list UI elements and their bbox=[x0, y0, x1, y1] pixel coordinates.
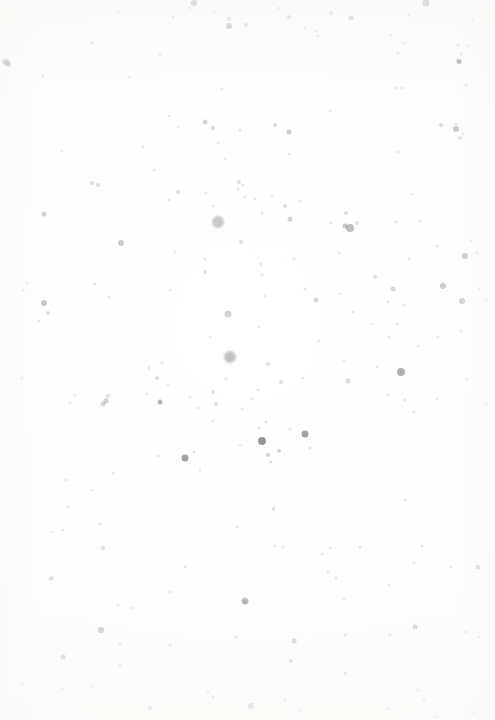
speckle-dot bbox=[465, 631, 468, 634]
speckle-dot bbox=[472, 20, 475, 23]
speckle-dot bbox=[417, 689, 420, 692]
speckle-dot bbox=[283, 204, 287, 208]
speckle-dot bbox=[61, 150, 64, 153]
speckle-dot bbox=[284, 699, 287, 702]
speckle-dot bbox=[91, 489, 94, 492]
speckle-dot bbox=[217, 142, 220, 145]
speckle-dot bbox=[221, 88, 224, 91]
speckle-dot bbox=[74, 394, 77, 397]
speckle-dot bbox=[476, 565, 481, 570]
speckle-dot bbox=[397, 368, 405, 376]
speckle-dot bbox=[273, 123, 277, 127]
speckle-dot bbox=[211, 126, 215, 130]
speckle-dot bbox=[327, 571, 330, 574]
speckle-dot bbox=[226, 23, 232, 29]
speckle-dot bbox=[346, 224, 354, 232]
speckle-dot bbox=[241, 408, 244, 411]
speckle-dot bbox=[387, 301, 390, 304]
speckle-dot bbox=[403, 304, 406, 307]
speckle-dot bbox=[419, 220, 422, 223]
speckle-dot bbox=[244, 196, 247, 199]
speckle-dot bbox=[212, 205, 215, 208]
speckle-dot bbox=[329, 11, 333, 15]
speckle-dot bbox=[282, 546, 285, 549]
speckle-dot bbox=[388, 584, 391, 587]
speckle-dot bbox=[197, 407, 200, 410]
speckle-dot bbox=[437, 336, 440, 339]
speckle-dot bbox=[169, 644, 172, 647]
speckle-dot bbox=[352, 311, 355, 314]
speckle-dot bbox=[436, 398, 439, 401]
speckle-dot bbox=[261, 274, 264, 277]
speckle-dot bbox=[335, 577, 338, 580]
speckle-dot bbox=[287, 130, 292, 135]
speckle-dot bbox=[288, 153, 291, 156]
speckle-dot bbox=[38, 320, 41, 323]
speckle-dot bbox=[258, 427, 261, 430]
speckle-dot bbox=[91, 42, 94, 45]
speckle-dot bbox=[411, 193, 414, 196]
speckle-dot bbox=[344, 211, 348, 215]
speckle-dot bbox=[478, 636, 481, 639]
speckle-dot bbox=[343, 598, 346, 601]
speckle-dot bbox=[476, 252, 479, 255]
speckle-dot bbox=[470, 240, 473, 243]
speckle-dot bbox=[98, 627, 104, 633]
speckle-dot bbox=[339, 293, 342, 296]
speckle-dot bbox=[304, 288, 307, 291]
speckle-dot bbox=[184, 566, 187, 569]
speckle-dot bbox=[61, 688, 64, 691]
speckle-dot bbox=[309, 447, 312, 450]
speckle-dot bbox=[413, 411, 416, 414]
speckle-dot bbox=[176, 190, 180, 194]
speckle-dot bbox=[395, 87, 398, 90]
speckle-dot bbox=[349, 16, 354, 21]
speckle-dot bbox=[270, 461, 273, 464]
speckle-dot bbox=[204, 258, 207, 261]
speckle-dot bbox=[408, 14, 411, 17]
speckle-dot bbox=[42, 75, 45, 78]
speckle-dot bbox=[159, 54, 162, 57]
speckle-dot bbox=[193, 451, 196, 454]
speckle-dot bbox=[148, 367, 151, 370]
speckle-dot bbox=[224, 351, 236, 363]
speckle-dot bbox=[343, 360, 346, 363]
speckle-dot bbox=[117, 604, 120, 607]
speckle-dot bbox=[41, 300, 47, 306]
speckle-dot bbox=[401, 87, 404, 90]
speckle-dot bbox=[439, 123, 443, 127]
speckle-dot bbox=[91, 685, 94, 688]
speckle-dot bbox=[207, 691, 210, 694]
speckle-dot bbox=[390, 34, 393, 37]
speckle-dot bbox=[203, 270, 207, 274]
speckle-dot bbox=[21, 683, 24, 686]
speckle-dot bbox=[359, 546, 362, 549]
speckle-dot bbox=[177, 126, 180, 129]
speckle-dot bbox=[244, 23, 248, 27]
speckle-dot bbox=[289, 659, 293, 663]
speckle-dot bbox=[485, 403, 488, 406]
speckle-dot bbox=[169, 591, 172, 594]
speckle-dot bbox=[387, 708, 390, 711]
speckle-dot bbox=[299, 200, 302, 203]
speckle-dot bbox=[128, 76, 131, 79]
speckle-dot bbox=[236, 526, 239, 529]
speckle-dot bbox=[300, 710, 303, 713]
speckle-dot bbox=[212, 216, 224, 228]
speckle-dot bbox=[130, 607, 133, 610]
speckle-dot bbox=[330, 222, 333, 225]
speckle-dot bbox=[404, 399, 407, 402]
speckle-dot bbox=[395, 221, 398, 224]
speckle-dot bbox=[304, 27, 307, 30]
speckle-dot bbox=[51, 531, 54, 534]
speckle-dot bbox=[26, 282, 29, 285]
speckle-dot bbox=[224, 158, 227, 161]
speckle-dot bbox=[243, 600, 248, 605]
speckle-dot bbox=[148, 706, 152, 710]
speckle-dot bbox=[261, 212, 264, 215]
speckle-dot bbox=[50, 576, 54, 580]
speckle-dot bbox=[199, 469, 202, 472]
speckle-dot bbox=[389, 634, 392, 637]
speckle-dot bbox=[265, 421, 268, 424]
speckle-dot bbox=[273, 507, 276, 510]
